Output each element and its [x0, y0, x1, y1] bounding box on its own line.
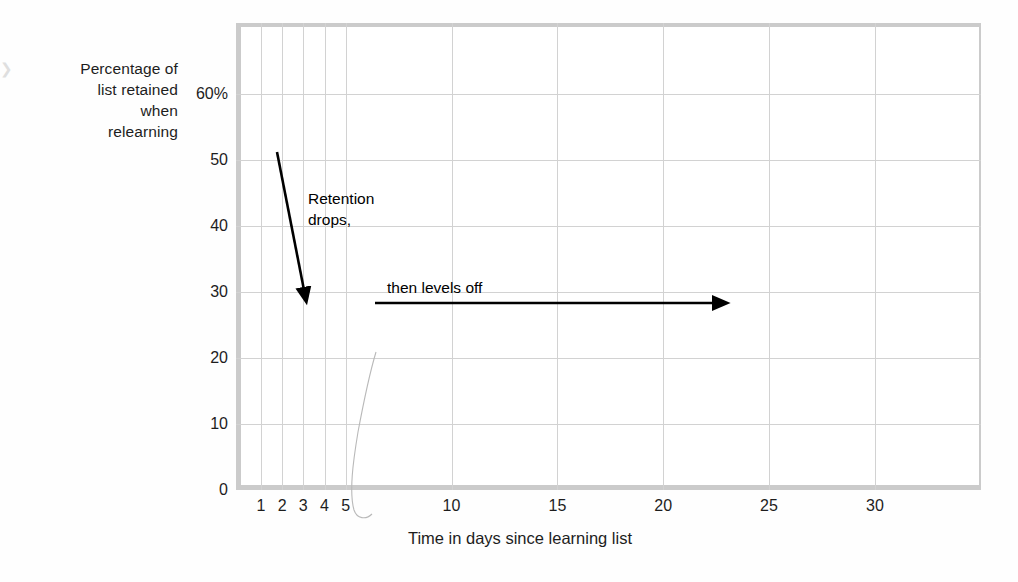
y-axis-tick-label: 20: [168, 349, 228, 367]
y-axis-tick-label: 40: [168, 217, 228, 235]
y-axis-ticks: 0102030405060%: [166, 0, 228, 582]
y-axis-label-line-4: relearning: [8, 121, 178, 142]
x-axis-label: Time in days since learning list: [0, 529, 1018, 548]
x-axis-tick-label: 25: [749, 497, 789, 515]
annotation-retention-drops: Retention drops,: [308, 188, 374, 230]
x-axis-tick-label: 20: [643, 497, 683, 515]
chart-screenshot: ❯ Percentage of list retained when relea…: [0, 0, 1018, 582]
y-axis-tick-label: 30: [168, 283, 228, 301]
y-axis-label-line-3: when: [8, 100, 178, 121]
gridline-horizontal: [236, 160, 981, 161]
y-axis-tick-label: 60%: [168, 85, 228, 103]
x-axis-tick-label: 5: [326, 497, 366, 515]
y-axis-tick-label: 50: [168, 151, 228, 169]
x-axis-tick-label: 15: [537, 497, 577, 515]
y-axis-label: Percentage of list retained when relearn…: [8, 58, 178, 142]
x-axis-tick-label: 30: [855, 497, 895, 515]
annotation-retention-drops-line-2: drops,: [308, 209, 374, 230]
y-axis-label-line-1: Percentage of: [8, 58, 178, 79]
gridline-horizontal: [236, 94, 981, 95]
annotation-then-levels-off: then levels off: [387, 279, 482, 297]
x-axis-tick-label: 10: [432, 497, 472, 515]
annotation-retention-drops-line-1: Retention: [308, 188, 374, 209]
gridline-horizontal: [236, 424, 981, 425]
x-axis-label-text: Time in days since learning list: [408, 529, 632, 547]
gridline-horizontal: [236, 292, 981, 293]
y-axis-label-line-2: list retained: [8, 79, 178, 100]
x-axis-ticks: 123451015202530: [0, 497, 1018, 523]
plot-area: [236, 23, 981, 490]
gridline-horizontal: [236, 358, 981, 359]
y-axis-tick-label: 10: [168, 415, 228, 433]
